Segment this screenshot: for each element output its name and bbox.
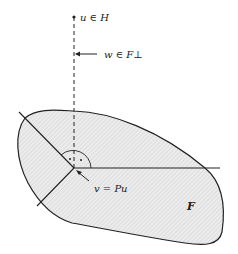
angle-dot-left — [69, 158, 71, 160]
angle-dot-right — [80, 159, 82, 161]
label-v: v = Pu — [94, 183, 128, 194]
label-u: u ∈ H — [80, 12, 109, 23]
convex-set-F — [18, 110, 224, 244]
projection-diagram: u ∈ H w ∈ F⊥ v = Pu F — [0, 0, 238, 254]
arrowhead-w — [75, 52, 80, 57]
label-F: F — [186, 200, 196, 213]
label-w: w ∈ F⊥ — [104, 49, 143, 60]
point-u — [72, 15, 75, 18]
